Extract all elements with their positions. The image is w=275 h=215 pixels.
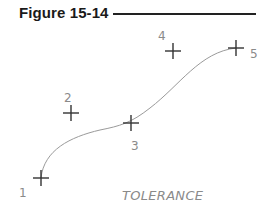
point-2-label: 2 (64, 91, 72, 105)
point-1-cross-icon (33, 170, 49, 186)
point-1-label: 1 (19, 186, 27, 200)
point-2-cross-icon (63, 105, 79, 121)
point-4-label: 4 (158, 29, 166, 43)
spline-diagram (0, 0, 275, 215)
point-5-label: 5 (250, 47, 258, 61)
point-4-cross-icon (165, 43, 181, 59)
point-3-label: 3 (131, 139, 139, 153)
tolerance-caption: TOLERANCE (122, 188, 203, 203)
point-5-cross-icon (228, 40, 244, 56)
